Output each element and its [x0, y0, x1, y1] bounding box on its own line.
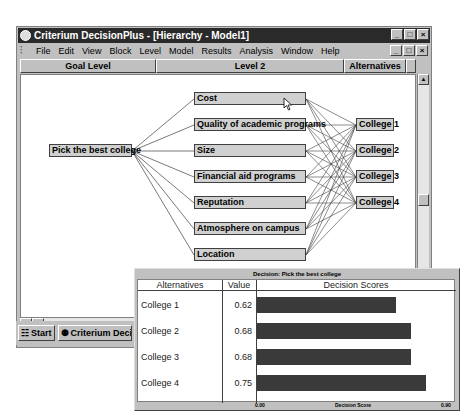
mouse-cursor-icon	[283, 97, 293, 111]
decision-scores-window: Decision: Pick the best college Alternat…	[134, 268, 460, 411]
doc-close-button[interactable]: ×	[416, 45, 428, 56]
header-decision-scores: Decision Scores	[256, 280, 456, 291]
criterion-node[interactable]: Size	[194, 144, 306, 157]
alternative-node[interactable]: College 1	[356, 118, 394, 131]
menu-model[interactable]: Model	[169, 46, 194, 56]
menu-window[interactable]: Window	[281, 46, 313, 56]
header-value: Value	[222, 280, 256, 291]
score-bar	[257, 349, 411, 365]
window-title: Criterium DecisionPlus - [Hierarchy - Mo…	[34, 30, 249, 41]
scroll-up-arrow-icon[interactable]: ▲	[418, 74, 429, 85]
goal-node[interactable]: Pick the best college	[49, 144, 132, 157]
column-divider	[222, 280, 223, 403]
menu-bar: ⫶ File Edit View Block Level Model Resul…	[18, 44, 430, 58]
level-header: Goal Level Level 2 Alternatives	[20, 59, 416, 73]
axis-max-label: 0.90	[441, 402, 451, 408]
axis-min-label: 0.00	[255, 402, 265, 408]
menu-file[interactable]: File	[36, 46, 51, 56]
maximize-button[interactable]: □	[404, 29, 416, 40]
minimize-button[interactable]: _	[391, 29, 403, 40]
score-bar	[257, 323, 411, 339]
score-bar	[257, 375, 426, 391]
row-value: 0.75	[226, 378, 252, 388]
vertical-scroll-thumb[interactable]	[418, 194, 429, 206]
decision-title: Decision: Pick the best college	[135, 269, 459, 279]
header-alternatives: Alternatives	[138, 280, 222, 291]
criterion-node[interactable]: Financial aid programs	[194, 170, 306, 183]
menu-help[interactable]: Help	[321, 46, 340, 56]
level-extra	[406, 59, 416, 73]
level-2[interactable]: Level 2	[156, 59, 344, 73]
menu-view[interactable]: View	[82, 46, 101, 56]
title-bar: Criterium DecisionPlus - [Hierarchy - Mo…	[18, 28, 430, 43]
menu-edit[interactable]: Edit	[59, 46, 75, 56]
criterion-node[interactable]: Atmosphere on campus	[194, 222, 306, 235]
taskbar-app-button[interactable]: ⚉ Criterium Decision	[58, 325, 132, 341]
start-label: Start	[31, 328, 52, 338]
row-alternative: College 2	[141, 326, 179, 336]
windows-logo-icon: ☷	[21, 328, 29, 338]
decision-table: Alternatives Value Decision Scores Colle…	[137, 279, 455, 402]
doc-minimize-button[interactable]: _	[390, 45, 402, 56]
row-value: 0.62	[226, 300, 252, 310]
menu-level[interactable]: Level	[139, 46, 161, 56]
row-alternative: College 4	[141, 378, 179, 388]
axis-title: Decision Score	[335, 402, 371, 408]
criterion-node[interactable]: Quality of academic programs	[194, 118, 306, 131]
taskbar-app-label: Criterium Decision	[71, 328, 132, 338]
hierarchy-icon[interactable]: ⫶	[20, 46, 32, 57]
app-icon: ⚉	[61, 328, 69, 338]
level-alternatives[interactable]: Alternatives	[344, 59, 406, 73]
alternative-node[interactable]: College 3	[356, 170, 394, 183]
criterion-node[interactable]: Reputation	[194, 196, 306, 209]
alternative-node[interactable]: College 2	[356, 144, 394, 157]
criterion-node[interactable]: Location	[194, 248, 306, 261]
menu-block[interactable]: Block	[109, 46, 131, 56]
menu-results[interactable]: Results	[201, 46, 231, 56]
menu-analysis[interactable]: Analysis	[239, 46, 273, 56]
taskbar: ☷ Start ⚉ Criterium Decision	[16, 321, 136, 345]
row-value: 0.68	[226, 326, 252, 336]
close-button[interactable]: ×	[417, 29, 429, 40]
row-value: 0.68	[226, 352, 252, 362]
score-bar	[257, 297, 396, 313]
alternative-node[interactable]: College 4	[356, 196, 394, 209]
doc-restore-button[interactable]: □	[403, 45, 415, 56]
app-icon	[20, 30, 31, 41]
row-alternative: College 3	[141, 352, 179, 362]
start-button[interactable]: ☷ Start	[18, 325, 55, 341]
level-goal[interactable]: Goal Level	[20, 59, 156, 73]
row-alternative: College 1	[141, 300, 179, 310]
